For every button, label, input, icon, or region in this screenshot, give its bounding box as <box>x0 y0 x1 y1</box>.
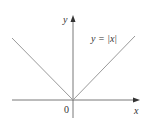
y-axis-arrow-icon <box>71 15 76 22</box>
plot-area: y x 0 y = |x| <box>0 0 148 129</box>
x-axis-arrow-icon <box>133 98 140 103</box>
function-label: y = |x| <box>90 33 117 44</box>
x-axis-label: x <box>133 105 139 116</box>
absolute-value-graph: y x 0 y = |x| <box>0 0 148 129</box>
origin-label: 0 <box>64 104 69 115</box>
y-axis-label: y <box>62 14 68 25</box>
abs-function-curve <box>12 36 135 100</box>
